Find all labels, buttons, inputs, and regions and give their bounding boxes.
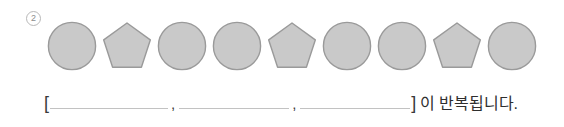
separator-comma-2: ,: [290, 93, 299, 115]
pentagon-glyph: [269, 23, 316, 67]
shape-circle: [213, 21, 261, 71]
answer-blank-1[interactable]: [50, 93, 168, 109]
answer-sentence: [ , , ] 이 반복됩니다.: [44, 92, 554, 118]
circle-glyph: [158, 22, 205, 69]
shape-circle: [48, 21, 96, 71]
open-bracket: [: [44, 92, 49, 114]
circle-glyph: [213, 22, 260, 69]
repeat-statement-text: 이 반복됩니다.: [416, 93, 517, 115]
answer-blank-3[interactable]: [300, 93, 410, 109]
shape-circle: [323, 21, 371, 71]
answer-blank-2[interactable]: [179, 93, 289, 109]
circle-glyph: [323, 22, 370, 69]
item-number-marker: 2: [26, 11, 41, 26]
shape-circle: [488, 21, 536, 71]
circle-glyph: [48, 22, 95, 69]
shape-circle: [158, 21, 206, 71]
pentagon-glyph: [104, 23, 151, 67]
item-number-label: 2: [31, 14, 36, 23]
shape-pentagon: [103, 21, 151, 71]
circle-glyph: [378, 22, 425, 69]
shape-pentagon: [433, 21, 481, 71]
shape-pentagon: [268, 21, 316, 71]
shape-circle: [378, 21, 426, 71]
separator-comma-1: ,: [169, 93, 178, 115]
shape-pattern-sequence: [48, 19, 540, 71]
circle-glyph: [488, 22, 535, 69]
pentagon-glyph: [434, 23, 481, 67]
